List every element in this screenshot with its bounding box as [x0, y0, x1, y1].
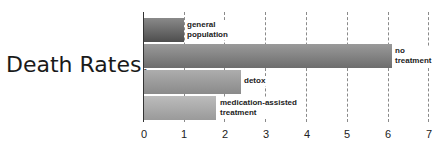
- bar-medication-assisted-treatment: [144, 96, 216, 120]
- bar-detox: [144, 70, 241, 94]
- label-line: population: [187, 30, 228, 40]
- label-line: treatment: [220, 108, 297, 118]
- bar-label-general-population: general population: [186, 20, 229, 40]
- x-tick-0: 0: [138, 128, 150, 140]
- x-tick-6: 6: [382, 128, 394, 140]
- x-tick-4: 4: [301, 128, 313, 140]
- label-line: detox: [244, 76, 265, 86]
- bar-label-medication-assisted-treatment: medication-assisted treatment: [219, 98, 298, 118]
- label-line: medication-assisted: [220, 98, 297, 108]
- x-tick-7: 7: [423, 128, 435, 140]
- bar-general-population: [144, 18, 184, 42]
- bar-label-no-treatment: no treatment: [394, 46, 432, 66]
- x-tick-5: 5: [341, 128, 353, 140]
- y-axis-line: [143, 12, 144, 122]
- bar-no-treatment: [144, 44, 392, 68]
- bar-label-detox: detox: [243, 76, 266, 86]
- x-tick-3: 3: [260, 128, 272, 140]
- x-tick-2: 2: [219, 128, 231, 140]
- bar-chart-plot: general population no treatment detox me…: [143, 12, 433, 122]
- chart-title: Death Rates:: [6, 52, 149, 77]
- gridline-7: [428, 12, 429, 122]
- label-line: treatment: [395, 56, 431, 66]
- label-line: general: [187, 20, 228, 30]
- label-line: no: [395, 46, 431, 56]
- x-tick-1: 1: [178, 128, 190, 140]
